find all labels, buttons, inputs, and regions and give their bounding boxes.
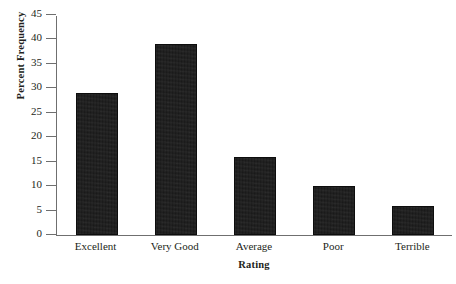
x-axis-tick-labels: Excellent Very Good Average Poor Terribl… xyxy=(56,240,452,252)
y-tick: 40 xyxy=(46,38,56,39)
bar-terrible xyxy=(392,206,434,235)
y-tick: 10 xyxy=(46,185,56,186)
bar-slot xyxy=(373,16,452,235)
x-tick-label-terrible: Terrible xyxy=(373,240,452,252)
y-axis-title: Percent Frequency xyxy=(15,0,26,151)
y-tick-label: 30 xyxy=(8,80,42,92)
x-tick-label-poor: Poor xyxy=(294,240,373,252)
y-tick-label: 0 xyxy=(8,227,42,239)
bar-slot xyxy=(294,16,373,235)
y-tick-label: 25 xyxy=(8,105,42,117)
y-tick-label: 45 xyxy=(8,7,42,19)
y-tick-label: 5 xyxy=(8,203,42,215)
y-tick: 0 xyxy=(46,234,56,235)
y-tick: 15 xyxy=(46,161,56,162)
y-tick: 5 xyxy=(46,210,56,211)
x-tick-label-very-good: Very Good xyxy=(135,240,214,252)
y-tick: 35 xyxy=(46,63,56,64)
bar-slot xyxy=(136,16,215,235)
x-axis-title: Rating xyxy=(56,259,452,270)
y-tick-label: 15 xyxy=(8,154,42,166)
y-tick-label: 10 xyxy=(8,178,42,190)
bar-chart: Percent Frequency 0 5 10 15 20 25 30 35 … xyxy=(0,0,456,284)
bar-very-good xyxy=(155,44,197,235)
y-tick: 30 xyxy=(46,87,56,88)
bar-average xyxy=(234,157,276,235)
y-tick: 45 xyxy=(46,14,56,15)
bar-excellent xyxy=(76,93,118,235)
bar-group xyxy=(57,16,452,235)
bar-slot xyxy=(57,16,136,235)
x-tick-label-average: Average xyxy=(214,240,293,252)
y-tick: 25 xyxy=(46,112,56,113)
plot-area: 0 5 10 15 20 25 30 35 40 45 xyxy=(56,16,452,236)
y-tick: 20 xyxy=(46,136,56,137)
bar-poor xyxy=(313,186,355,235)
x-tick-label-excellent: Excellent xyxy=(56,240,135,252)
bar-slot xyxy=(215,16,294,235)
y-tick-label: 20 xyxy=(8,129,42,141)
y-tick-label: 40 xyxy=(8,31,42,43)
y-tick-label: 35 xyxy=(8,56,42,68)
